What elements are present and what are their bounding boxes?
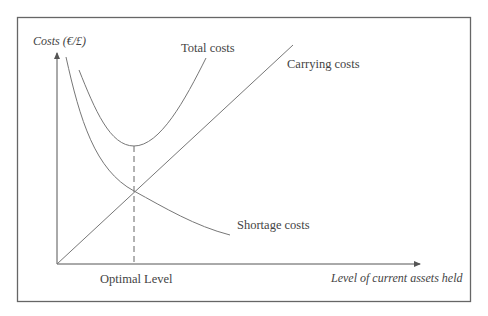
diagram-frame xyxy=(18,18,471,302)
x-axis-label: Level of current assets held xyxy=(330,271,464,285)
diagram-canvas: Costs (€/£) Total costs Carrying costs S… xyxy=(0,0,488,316)
total-costs-label: Total costs xyxy=(181,41,235,55)
y-axis-label: Costs (€/£) xyxy=(33,34,86,48)
shortage-costs-label: Shortage costs xyxy=(237,218,310,232)
carrying-costs-label: Carrying costs xyxy=(287,57,360,71)
optimal-level-label: Optimal Level xyxy=(100,272,173,286)
